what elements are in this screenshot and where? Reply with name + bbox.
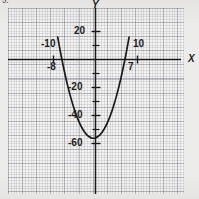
x-intercept-label-7: 7 xyxy=(128,62,134,72)
x-axis-label: X xyxy=(188,54,195,64)
y-tick-label-neg20: -20 xyxy=(68,82,82,92)
coordinate-plane-plot xyxy=(0,0,199,199)
x-tick-label-neg10: -10 xyxy=(41,39,55,49)
y-tick-label-neg60: -60 xyxy=(68,138,82,148)
y-axis-label: Y xyxy=(92,0,99,10)
y-tick-label-neg40: -40 xyxy=(68,110,82,120)
graph-figure: 5. Y X -10 10 20 -20 -40 -60 -8 7 xyxy=(0,0,199,199)
x-tick-label-10: 10 xyxy=(133,39,144,49)
y-tick-label-20: 20 xyxy=(74,26,85,36)
x-intercept-label-neg8: -8 xyxy=(47,62,56,72)
